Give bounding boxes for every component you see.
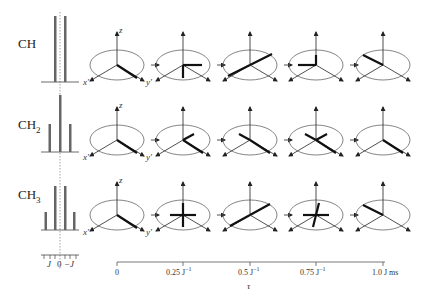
y-axis-label: y′ (146, 77, 152, 87)
x-axis-label: x′ (83, 227, 89, 237)
time-axis-title: τ (247, 281, 250, 291)
vector-frame (289, 182, 358, 231)
time-tick-05: 0.5 J−1 (238, 266, 260, 277)
z-axis-label: z (119, 175, 123, 185)
vector-frame (156, 182, 225, 231)
freq-label-j: J (47, 259, 51, 269)
vector-frame (356, 182, 410, 231)
vector-frame (90, 182, 159, 231)
vector-frame (156, 32, 225, 81)
spectrum-ch2 (41, 95, 79, 152)
row-label-ch3: CH3 (18, 187, 41, 205)
x-axis-label: x′ (83, 152, 89, 162)
row-label-ch: CH (18, 36, 36, 52)
vector-frame (356, 32, 410, 81)
vector-frame (156, 107, 225, 156)
vector-frame (90, 32, 159, 81)
y-axis-label: y′ (146, 227, 152, 237)
time-tick-0: 0 (115, 268, 119, 277)
time-tick-075: 0.75 J−1 (300, 266, 326, 277)
time-tick-10: 1.0 J ms (372, 268, 398, 277)
diagram-canvas (0, 0, 437, 303)
vector-frame (223, 107, 292, 156)
vector-frame (289, 107, 358, 156)
freq-label-minus-j: −J (64, 259, 74, 269)
vector-frame (90, 107, 159, 156)
vector-frame (223, 32, 292, 81)
z-axis-label: z (119, 100, 123, 110)
vector-frame (289, 32, 358, 81)
vector-frame (223, 182, 292, 231)
time-tick-025: 0.25 J−1 (166, 266, 192, 277)
y-axis-label: y′ (146, 152, 152, 162)
freq-label-zero: 0 (57, 259, 62, 269)
x-axis-label: x′ (83, 77, 89, 87)
row-label-ch2: CH2 (18, 117, 41, 135)
z-axis-label: z (119, 25, 123, 35)
vector-frame (356, 107, 410, 156)
